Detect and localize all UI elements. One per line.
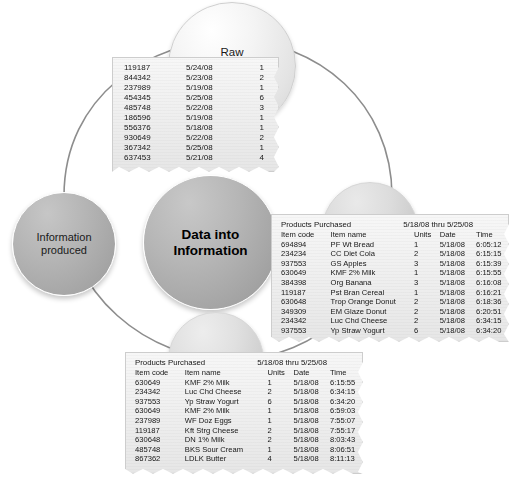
column-header: Item code: [281, 230, 331, 240]
table-row: 384398Org Banana35/18/086:16:08: [281, 278, 509, 288]
table-cell: 630648: [281, 297, 331, 307]
column-header: Item code: [135, 368, 185, 378]
table-cell: 1: [238, 143, 268, 153]
processed-title-row: Products Purchased 5/18/08 thru 5/25/08: [281, 220, 509, 229]
table-cell: 5/18/08: [440, 316, 476, 326]
table-cell: 3: [238, 103, 268, 113]
table-cell: 6:34:20: [476, 326, 509, 336]
validated-title-row: Products Purchased 5/18/08 thru 5/25/08: [135, 358, 363, 367]
table-cell: 2: [268, 435, 294, 445]
table-cell: 367342: [124, 143, 186, 153]
table-cell: 1: [414, 240, 440, 250]
table-cell: DN 1% Milk: [185, 435, 268, 445]
table-cell: 5/18/08: [293, 435, 330, 445]
table-cell: 5/18/08: [440, 307, 476, 317]
table-cell: 7:55:07: [330, 416, 363, 426]
table-row: 4543455/25/086: [124, 93, 268, 103]
table-cell: PF Wt Bread: [331, 240, 414, 250]
table-cell: 937553: [281, 259, 331, 269]
table-cell: 8:03:43: [330, 435, 363, 445]
table-cell: 4: [268, 454, 294, 464]
column-header: Time: [330, 368, 363, 378]
table-cell: 1: [268, 378, 294, 388]
table-cell: 6:20:51: [476, 307, 509, 317]
table-cell: CC Diet Cola: [331, 249, 414, 259]
table-cell: Org Banana: [331, 278, 414, 288]
table-row: 630648Trop Orange Donut25/18/086:18:36: [281, 297, 509, 307]
table-cell: 2: [414, 249, 440, 259]
column-header: Units: [414, 230, 440, 240]
table-cell: 1: [268, 406, 294, 416]
table-row: 234342Luc Chd Cheese25/18/086:34:15: [281, 316, 509, 326]
column-header: Item name: [185, 368, 268, 378]
table-cell: 5/18/08: [440, 268, 476, 278]
table-cell: 5/18/08: [186, 123, 238, 133]
table-cell: 6:05:12: [476, 240, 509, 250]
table-cell: 6:15:55: [476, 268, 509, 278]
table-cell: 6: [414, 326, 440, 336]
column-header: Units: [268, 368, 294, 378]
validated-title: Products Purchased: [135, 358, 205, 367]
table-cell: 5/18/08: [293, 406, 330, 416]
table-cell: 5/18/08: [293, 454, 330, 464]
table-row: 4857485/22/083: [124, 103, 268, 113]
table-cell: 5/25/08: [186, 143, 238, 153]
table-row: 630649KMF 2% Milk15/18/086:15:55: [281, 268, 509, 278]
processed-receipt: Products Purchased 5/18/08 thru 5/25/08 …: [271, 214, 509, 342]
table-cell: KMF 2% Milk: [331, 268, 414, 278]
table-cell: 8:06:51: [330, 445, 363, 455]
table-cell: 119187: [124, 63, 186, 73]
table-cell: 1: [238, 63, 268, 73]
table-cell: 1: [238, 113, 268, 123]
center-title-line1: Data into: [182, 227, 240, 242]
table-cell: 186596: [124, 113, 186, 123]
table-cell: 5/18/08: [440, 249, 476, 259]
table-cell: 5/18/08: [440, 288, 476, 298]
clipped-text-line: T: [500, 4, 509, 15]
table-cell: 2: [238, 73, 268, 83]
table-cell: 1: [414, 288, 440, 298]
table-cell: 6:18:36: [476, 297, 509, 307]
table-cell: 5/22/08: [186, 103, 238, 113]
table-cell: 234342: [135, 387, 185, 397]
table-row: 630649KMF 2% Milk15/18/086:59:03: [135, 406, 363, 416]
clipped-text-line: I: [500, 27, 509, 38]
table-cell: 630649: [281, 268, 331, 278]
table-cell: 5/24/08: [186, 63, 238, 73]
node-data-into-information: Data into Information: [143, 175, 278, 310]
table-cell: BKS Sour Cream: [185, 445, 268, 455]
table-cell: 485748: [124, 103, 186, 113]
table-cell: 6:59:03: [330, 406, 363, 416]
table-row: 5563765/18/081: [124, 123, 268, 133]
table-cell: 485748: [135, 445, 185, 455]
table-cell: 630648: [135, 435, 185, 445]
table-cell: 119187: [135, 426, 185, 436]
table-row: 9306495/22/082: [124, 133, 268, 143]
table-cell: 6:34:15: [476, 316, 509, 326]
table-row: 119187Pst Bran Cereal15/18/086:16:21: [281, 288, 509, 298]
table-cell: 349309: [281, 307, 331, 317]
table-row: 1865965/19/081: [124, 113, 268, 123]
raw-data-receipt: 1191875/24/0818443425/23/0822379895/19/0…: [112, 57, 279, 172]
table-cell: 1: [238, 123, 268, 133]
table-cell: 6:34:20: [330, 397, 363, 407]
table-row: 630649KMF 2% Milk15/18/086:15:55: [135, 378, 363, 388]
table-cell: WF Doz Eggs: [185, 416, 268, 426]
processed-table-header: Item codeItem nameUnitsDateTime: [281, 230, 509, 240]
table-cell: GS Apples: [331, 259, 414, 269]
table-row: 119187Kft Strg Cheese25/18/087:55:17: [135, 426, 363, 436]
raw-data-table: 1191875/24/0818443425/23/0822379895/19/0…: [124, 63, 268, 163]
clipped-text-line: s: [500, 50, 509, 61]
table-cell: 930649: [124, 133, 186, 143]
table-row: 485748BKS Sour Cream15/18/088:06:51: [135, 445, 363, 455]
info-line1: Information: [36, 231, 91, 243]
processed-date-range: 5/18/08 thru 5/25/08: [403, 220, 509, 229]
table-row: 867362LDLK Butter45/18/088:11:13: [135, 454, 363, 464]
validated-table-header: Item codeItem nameUnitsDateTime: [135, 368, 363, 378]
table-cell: 844342: [124, 73, 186, 83]
table-cell: 2: [238, 133, 268, 143]
table-row: 2379895/19/081: [124, 83, 268, 93]
table-cell: 867362: [135, 454, 185, 464]
table-row: 937553Yp Straw Yogurt65/18/086:34:20: [281, 326, 509, 336]
table-cell: 2: [268, 426, 294, 436]
